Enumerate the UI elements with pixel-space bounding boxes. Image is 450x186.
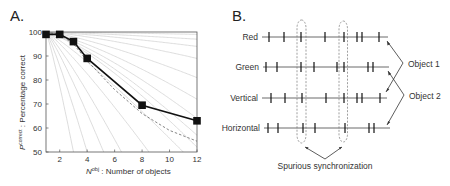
object-1-label: Object 1	[408, 59, 440, 69]
x-tick-label: 8	[140, 155, 145, 164]
x-tick-label: 2	[58, 155, 63, 164]
spike-row-red: Red	[242, 32, 388, 42]
x-tick-label: 4	[85, 155, 90, 164]
data-point-marker	[56, 31, 64, 39]
data-point-marker	[138, 101, 146, 109]
spike-row-vertical: Vertical	[230, 93, 387, 103]
row-label: Red	[242, 32, 258, 42]
data-point-marker	[70, 38, 78, 46]
figure: A. 5060708090100 24681012 Nobj : Number …	[0, 0, 450, 186]
object-1-arrow	[386, 41, 403, 92]
y-tick-label: 100	[29, 28, 43, 37]
row-label: Vertical	[230, 93, 258, 103]
row-label: Horizontal	[222, 123, 260, 133]
y-tick-label: 80	[33, 76, 42, 85]
object-2-arrow	[387, 71, 404, 125]
data-point-marker	[83, 55, 91, 63]
sync-oval-2	[339, 21, 348, 142]
arrowhead-icon	[387, 121, 390, 125]
x-tick-label: 10	[165, 155, 174, 164]
spurious-sync-label: Spurious synchronization	[278, 161, 373, 171]
spurious-arrow-2	[325, 147, 342, 159]
spike-row-green: Green	[235, 62, 389, 72]
data-point-marker	[193, 117, 201, 125]
object-2-label: Object 2	[409, 91, 441, 101]
background-curves	[46, 32, 197, 164]
y-axis-ticks: 5060708090100	[29, 28, 49, 157]
y-axis-label: Pcorrect : Percentage correct	[17, 54, 27, 150]
row-label: Green	[235, 62, 259, 72]
object-arrows	[305, 41, 404, 159]
data-point-marker	[42, 31, 50, 39]
y-tick-label: 70	[33, 100, 42, 109]
y-tick-label: 90	[33, 52, 42, 61]
arrowhead-icon	[386, 88, 389, 92]
spurious-arrow-1	[305, 147, 325, 159]
panel-a-letter: A.	[10, 7, 24, 24]
y-tick-label: 50	[33, 148, 42, 157]
y-tick-label: 60	[33, 124, 42, 133]
panel-b-diagram: RedGreenVerticalHorizontal Object 1 Obje…	[222, 20, 441, 171]
x-tick-label: 12	[193, 155, 202, 164]
arrowheads	[305, 41, 391, 150]
panel-a-chart: 5060708090100 24681012 Nobj : Number of …	[17, 28, 202, 176]
panel-b-letter: B.	[232, 7, 246, 24]
x-axis-label: Nobj : Number of objects	[86, 166, 171, 176]
x-tick-label: 6	[112, 155, 117, 164]
